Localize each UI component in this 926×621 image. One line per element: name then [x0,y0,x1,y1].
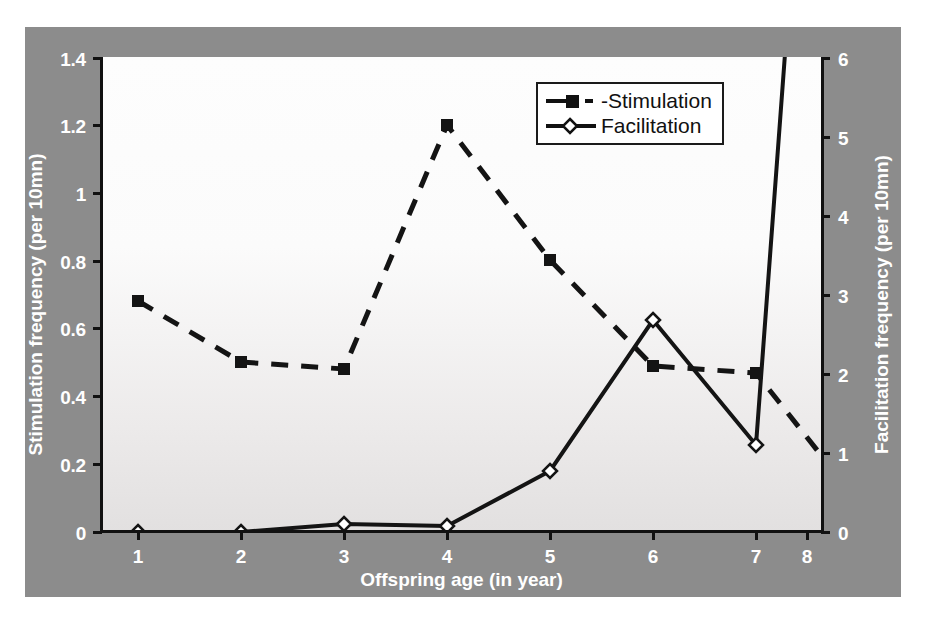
y-left-tick-1.2 [93,124,102,127]
x-label-5: 5 [545,547,555,566]
y-left-tick-0 [93,531,102,534]
y-right-tick-3 [821,294,830,297]
y-left-tick-0.8 [93,260,102,263]
y-right-tick-6 [821,57,830,60]
y-axis-right-title: Facilitation frequency (per 10mn) [872,95,891,515]
x-label-8: 8 [802,547,812,566]
legend-label-facilitation: Facilitation [601,115,701,136]
legend-label-stimulation: -Stimulation [601,90,712,111]
y-left-tick-0.4 [93,395,102,398]
x-label-3: 3 [339,547,349,566]
y-left-tick-0.6 [93,327,102,330]
x-axis-title: Offspring age (in year) [101,570,822,589]
legend-swatch-facilitation-solid-diamond-icon [544,116,600,136]
series-facilitation-markers [131,313,763,532]
y-right-tick-5 [821,136,830,139]
y-left-label-1.4: 1.4 [28,50,86,69]
y-axis-left-title: Stimulation frequency (per 10mn) [26,95,45,515]
x-tick-5 [549,531,552,540]
x-tick-1 [137,531,140,540]
x-label-7: 7 [751,547,761,566]
series-stimulation-markers [132,119,822,509]
x-label-1: 1 [133,547,143,566]
series-stimulation-line [138,125,822,503]
y-right-tick-1 [821,452,830,455]
chart-figure: 0 0.2 0.4 0.6 0.8 1 1.2 1.4 0 1 2 3 4 5 … [0,0,926,621]
x-tick-2 [240,531,243,540]
legend-item-stimulation[interactable]: -Stimulation [544,88,712,113]
y-left-tick-0.2 [93,463,102,466]
legend-item-facilitation[interactable]: Facilitation [544,113,712,138]
y-right-tick-2 [821,373,830,376]
chart-legend: -Stimulation Facilitation [536,82,724,145]
y-left-tick-1 [93,192,102,195]
y-right-tick-4 [821,215,830,218]
x-tick-6 [652,531,655,540]
x-tick-7 [755,531,758,540]
legend-swatch-stimulation-dashed-square-icon [544,91,600,111]
y-axis-left-line [100,57,103,533]
y-left-label-0: 0 [28,524,86,543]
x-tick-3 [343,531,346,540]
x-label-4: 4 [442,547,452,566]
x-label-6: 6 [648,547,658,566]
x-tick-8 [806,531,809,540]
y-right-label-6: 6 [838,50,878,69]
y-right-label-0: 0 [838,524,878,543]
x-axis-line [100,530,824,533]
x-label-2: 2 [236,547,246,566]
y-left-tick-1.4 [93,57,102,60]
x-tick-4 [446,531,449,540]
y-right-tick-0 [821,531,830,534]
